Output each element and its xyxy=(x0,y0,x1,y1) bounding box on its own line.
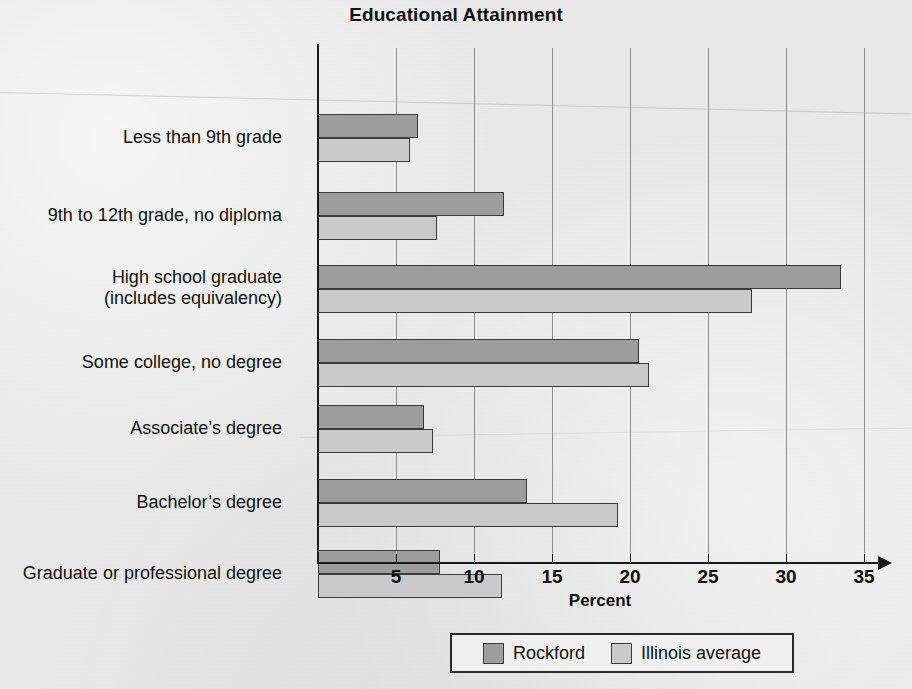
category-label-line1-0: Less than 9th grade xyxy=(0,127,282,148)
legend-swatch-illinois-average xyxy=(611,643,632,664)
bar-rockford-3 xyxy=(318,339,639,363)
category-label-4: Associate’s degree xyxy=(0,418,282,439)
bar-illinois-3 xyxy=(318,363,649,387)
y-axis-line xyxy=(317,44,319,564)
bar-rockford-2 xyxy=(318,265,841,289)
category-label-line1-2: High school graduate xyxy=(0,267,282,288)
bar-illinois-1 xyxy=(318,216,437,240)
tick-label-35: 35 xyxy=(842,566,886,588)
category-label-line2-2: (includes equivalency) xyxy=(0,288,282,309)
x-axis-title: Percent xyxy=(318,591,882,611)
bar-illinois-0 xyxy=(318,138,410,162)
legend-entry-rockford[interactable]: Rockford xyxy=(483,643,585,664)
tick-label-10: 10 xyxy=(452,566,496,588)
tick-mark-10 xyxy=(474,554,475,563)
category-label-5: Bachelor’s degree xyxy=(0,492,282,513)
chart-title: Educational Attainment xyxy=(0,4,912,26)
x-axis-line xyxy=(318,562,882,564)
bar-rockford-4 xyxy=(318,405,424,429)
category-label-line1-5: Bachelor’s degree xyxy=(0,492,282,513)
legend-label-rockford: Rockford xyxy=(513,643,585,664)
legend-label-illinois-average: Illinois average xyxy=(641,643,761,664)
bar-illinois-4 xyxy=(318,429,433,453)
category-label-line1-3: Some college, no degree xyxy=(0,352,282,373)
category-label-line1-4: Associate’s degree xyxy=(0,418,282,439)
gridline-30 xyxy=(786,48,787,562)
chart-root: Educational Attainment 5101520253035 Les… xyxy=(0,0,912,689)
legend-swatch-rockford xyxy=(483,643,504,664)
tick-mark-20 xyxy=(630,554,631,563)
plot-area xyxy=(318,48,878,562)
category-label-3: Some college, no degree xyxy=(0,352,282,373)
category-label-1: 9th to 12th grade, no diploma xyxy=(0,205,282,226)
bar-illinois-5 xyxy=(318,503,618,527)
bar-rockford-1 xyxy=(318,192,504,216)
chart-legend[interactable]: Rockford Illinois average xyxy=(450,633,794,673)
tick-label-5: 5 xyxy=(374,566,418,588)
bar-rockford-0 xyxy=(318,114,418,138)
bar-illinois-2 xyxy=(318,289,752,313)
bar-rockford-5 xyxy=(318,479,527,503)
tick-mark-35 xyxy=(864,554,865,563)
category-label-0: Less than 9th grade xyxy=(0,127,282,148)
category-label-2: High school graduate(includes equivalenc… xyxy=(0,267,282,309)
tick-label-30: 30 xyxy=(764,566,808,588)
legend-entry-illinois-average[interactable]: Illinois average xyxy=(611,643,761,664)
tick-mark-5 xyxy=(396,554,397,563)
tick-mark-15 xyxy=(552,554,553,563)
category-label-line1-6: Graduate or professional degree xyxy=(0,563,282,584)
tick-mark-25 xyxy=(708,554,709,563)
gridline-35 xyxy=(864,48,865,562)
tick-label-20: 20 xyxy=(608,566,652,588)
tick-mark-30 xyxy=(786,554,787,563)
category-label-6: Graduate or professional degree xyxy=(0,563,282,584)
category-label-line1-1: 9th to 12th grade, no diploma xyxy=(0,205,282,226)
tick-label-15: 15 xyxy=(530,566,574,588)
tick-label-25: 25 xyxy=(686,566,730,588)
